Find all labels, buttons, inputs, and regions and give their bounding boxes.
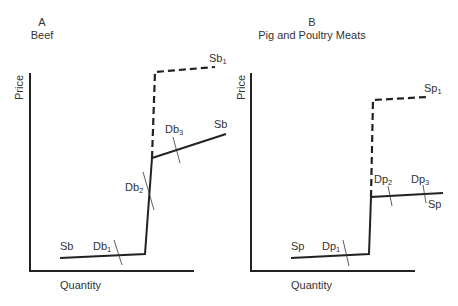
panel-b-x-axis-label: Quantity — [291, 279, 332, 291]
panel-b-label-dp3: Dp3 — [411, 173, 429, 187]
panel-a-label-sb-low: Sb — [60, 240, 73, 252]
panel-a-label-sb1: Sb1 — [209, 52, 227, 66]
panel-b-y-axis-label: Price — [235, 75, 247, 100]
panel-a-label-db2: Db2 — [125, 181, 143, 195]
panel-b-label-sp-end: Sp — [428, 198, 441, 210]
panel-b-label-dp1: Dp1 — [322, 240, 340, 254]
panel-b-label-dp2: Dp2 — [374, 173, 392, 187]
panel-a-x-axis-label: Quantity — [60, 279, 101, 291]
panel-b-label-sp1: Sp1 — [424, 82, 442, 96]
panel-a-supply-sb — [60, 134, 226, 258]
panel-a-supply-sb1-dashed — [152, 67, 215, 158]
panel-b-title: Pig and Poultry Meats — [258, 29, 366, 41]
panel-a-title: Beef — [31, 29, 55, 41]
panel-b-letter: B — [308, 16, 315, 28]
panel-a-y-axis-label: Price — [13, 75, 25, 100]
panel-b-demand-dp1 — [343, 240, 349, 266]
panel-a: A Beef Price Quantity Sb Db1 Db2 Db3 Sb … — [13, 16, 227, 291]
panel-a-letter: A — [38, 16, 46, 28]
panel-b: B Pig and Poultry Meats Price Quantity S… — [235, 16, 443, 291]
panel-b-label-sp-low: Sp — [291, 240, 304, 252]
panel-a-label-db1: Db1 — [93, 240, 111, 254]
panel-b-supply-sp — [291, 193, 443, 258]
panel-a-label-db3: Db3 — [165, 123, 183, 137]
chart-canvas: A Beef Price Quantity Sb Db1 Db2 Db3 Sb … — [0, 0, 458, 306]
panel-a-label-sb-end: Sb — [214, 118, 227, 130]
panel-a-demand-db1 — [114, 240, 122, 265]
panel-a-axes — [30, 73, 194, 271]
